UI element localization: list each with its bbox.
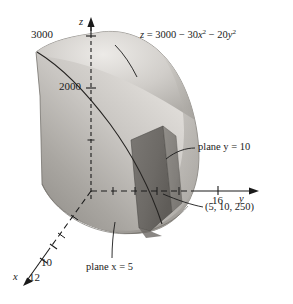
plane-y-annotation: plane y = 10 bbox=[198, 142, 250, 153]
equation-coefficient-2: 20 bbox=[217, 29, 228, 40]
equation-equals: = bbox=[147, 29, 153, 40]
z-tick-label-3000: 3000 bbox=[31, 29, 53, 40]
z-axis-arrowhead bbox=[87, 17, 94, 27]
x-tick-label-10: 10 bbox=[41, 257, 52, 268]
equation-lhs: z bbox=[140, 29, 144, 40]
z-tick-label-2000: 2000 bbox=[59, 81, 81, 92]
equation-exponent-1: 2 bbox=[203, 28, 207, 36]
x-axis-label: x bbox=[13, 272, 18, 283]
point-annotation: (5, 10, 250) bbox=[205, 202, 254, 213]
equation-coefficient-1: 30 bbox=[187, 29, 198, 40]
equation-minus-2: − bbox=[209, 29, 215, 40]
plane-x-annotation: plane x = 5 bbox=[86, 262, 133, 273]
equation-constant: 3000 bbox=[155, 29, 176, 40]
equation-minus-1: − bbox=[179, 29, 185, 40]
x-tick-10 bbox=[50, 244, 57, 249]
y-axis-arrowhead bbox=[249, 187, 259, 194]
surface-equation-label: z = 3000 − 30x2 − 20y2 bbox=[140, 30, 236, 41]
surface-plot-figure: z 3000 2000 y 16 x 10 12 z = 3000 − 30x2… bbox=[0, 0, 293, 304]
equation-exponent-2: 2 bbox=[233, 28, 237, 36]
x-tick-label-12: 12 bbox=[29, 272, 40, 283]
z-axis-label: z bbox=[79, 17, 83, 28]
